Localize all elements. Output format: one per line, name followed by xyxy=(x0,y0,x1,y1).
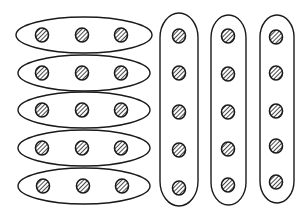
hatched-dot xyxy=(222,67,235,81)
hatched-dot xyxy=(36,66,49,80)
hatched-dot xyxy=(222,142,235,156)
group-col-2 xyxy=(211,15,246,205)
hatched-dot xyxy=(36,141,49,155)
group-row-5 xyxy=(18,168,150,204)
group-row-2 xyxy=(18,55,150,91)
hatched-dot xyxy=(173,143,186,157)
hatched-dot xyxy=(270,104,283,118)
group-col-3 xyxy=(260,15,294,203)
hatched-dot xyxy=(173,181,186,195)
hatched-dot xyxy=(115,103,128,117)
hatched-dot xyxy=(115,66,128,80)
hatched-dot xyxy=(36,28,49,42)
hatched-dot xyxy=(76,141,89,155)
hatched-dot xyxy=(77,179,90,193)
hatched-dot xyxy=(173,29,186,43)
hatched-dot xyxy=(76,28,89,42)
hatched-dot xyxy=(36,103,49,117)
hatched-dot xyxy=(76,103,89,117)
hatched-dot xyxy=(270,30,283,44)
hatched-dot xyxy=(270,139,283,153)
hatched-dot xyxy=(270,175,283,189)
hatched-dot xyxy=(115,28,128,42)
hatched-dot xyxy=(222,178,235,192)
group-row-4 xyxy=(18,130,150,166)
hatched-dot xyxy=(222,29,235,43)
horizontal-groups xyxy=(16,17,152,204)
hatched-dot xyxy=(37,179,50,193)
group-row-3 xyxy=(18,92,150,128)
hatched-dot xyxy=(76,66,89,80)
group-row-1 xyxy=(16,17,152,53)
hatched-dot xyxy=(173,105,186,119)
hatched-dot xyxy=(173,66,186,80)
vertical-groups xyxy=(160,13,294,206)
grouping-diagram xyxy=(0,0,308,219)
hatched-dot xyxy=(116,179,129,193)
group-col-1 xyxy=(160,13,198,206)
hatched-dot xyxy=(222,105,235,119)
hatched-dot xyxy=(115,141,128,155)
hatched-dot xyxy=(270,66,283,80)
